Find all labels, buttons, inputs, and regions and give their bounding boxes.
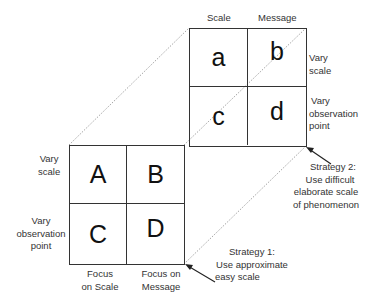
small-col-header-scale: Scale	[207, 12, 231, 25]
label-line: Focus on	[136, 268, 186, 281]
label-line: scale	[38, 166, 60, 179]
strategy-1-arrow	[188, 266, 215, 282]
large-row-label-vary-observation: Vary observation point	[15, 215, 67, 253]
label-line: on Scale	[80, 281, 120, 294]
label-line: Vary	[309, 52, 331, 65]
label-line: observation	[15, 228, 67, 241]
label-line: of phenomenon	[286, 199, 366, 212]
cell-C: C	[70, 204, 127, 264]
label-line: Use difficult	[286, 174, 366, 187]
dotted-line-top-left	[69, 28, 189, 145]
large-col-header-focus-message: Focus on Message	[136, 268, 186, 293]
label-line: Strategy 2:	[286, 161, 366, 174]
small-row-label-vary-scale: Vary scale	[309, 52, 331, 77]
cell-d: d	[248, 87, 306, 145]
small-row-label-vary-observation: Vary observation point	[309, 95, 358, 133]
label-line: Strategy 1:	[212, 246, 292, 259]
cell-b: b	[248, 29, 306, 87]
label-line: scale	[309, 65, 331, 78]
small-grid: a b c d	[189, 28, 307, 147]
large-row-label-vary-scale: Vary scale	[38, 153, 60, 178]
label-line: point	[15, 240, 67, 253]
cell-c: c	[190, 87, 248, 145]
label-line: Focus	[80, 268, 120, 281]
label-line: elaborate scale	[286, 186, 366, 199]
label-line: Use approximate	[212, 259, 292, 272]
cell-B: B	[127, 146, 184, 204]
cell-a: a	[190, 29, 248, 87]
label-line: Message	[136, 281, 186, 294]
strategy-1-arrowhead	[185, 264, 193, 270]
strategy-2-label: Strategy 2: Use difficult elaborate scal…	[286, 161, 366, 211]
label-line: Vary	[309, 95, 358, 108]
small-col-header-message: Message	[258, 12, 297, 25]
label-line: Vary	[15, 215, 67, 228]
strategy-1-label: Strategy 1: Use approximate easy scale	[212, 246, 292, 284]
cell-A: A	[70, 146, 127, 204]
large-col-header-focus-scale: Focus on Scale	[80, 268, 120, 293]
cell-D: D	[127, 204, 184, 264]
label-line: Vary	[38, 153, 60, 166]
label-line: point	[309, 120, 358, 133]
label-line: observation	[309, 108, 358, 121]
large-grid: A B C D	[69, 145, 185, 265]
label-line: easy scale	[212, 271, 292, 284]
